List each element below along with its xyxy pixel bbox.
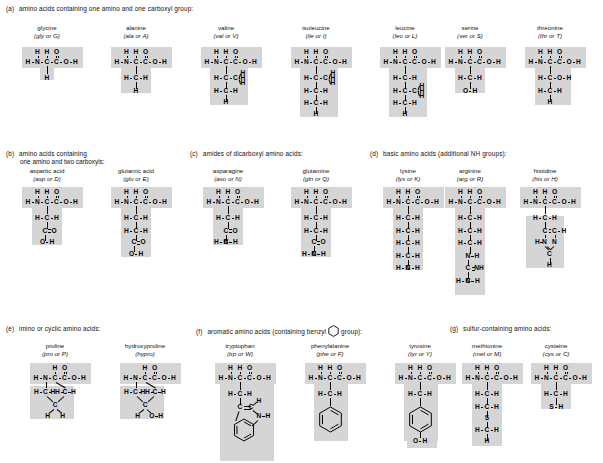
section-heading-text: basic amino acids (additional NH groups)… [381, 150, 506, 157]
bond-horizontal [320, 78, 322, 79]
atom-N-imino: N [43, 375, 48, 382]
atom-H-n-terminal: H [115, 199, 120, 206]
atom-C-ring-bottom: C [53, 402, 58, 409]
atom-H-amine: H [35, 49, 40, 56]
atom-H-hydroxyl: H [73, 59, 78, 66]
bond-horizontal [474, 202, 476, 203]
atom-C-chain: C [406, 215, 411, 222]
atom-N: N [124, 199, 129, 206]
atom-H-thiol: H [558, 403, 563, 410]
bond-horizontal [232, 218, 234, 219]
bond-horizontal [329, 202, 331, 203]
atom-H-hydroxyl: H [446, 375, 451, 382]
bond-horizontal [135, 254, 138, 255]
atom-H-hydroxyl: H [567, 75, 572, 82]
atom-C-chain: C [468, 227, 473, 234]
bond-horizontal [555, 407, 558, 408]
bond-horizontal [550, 394, 552, 395]
amino-acid-name: glycine(gly or G) [0, 24, 95, 39]
atom-O-carbonyl: O [323, 189, 328, 196]
bond-horizontal [481, 378, 483, 379]
atom-C-beta: C [548, 75, 553, 82]
atom-O-hydroxyl: O [129, 250, 134, 257]
bond-horizontal [320, 91, 322, 92]
atom-H-alpha: H [406, 189, 411, 196]
atom-C-alpha: C [406, 199, 411, 206]
atom-O-carbonyl: O [233, 49, 238, 56]
bond-horizontal [241, 202, 243, 203]
atom-C-chain: C [134, 75, 139, 82]
bond-horizontal [41, 218, 43, 219]
bond-horizontal [560, 378, 562, 379]
atom-H-alpha: H [468, 189, 473, 196]
bond-horizontal [78, 378, 80, 379]
bond-horizontal [159, 202, 161, 203]
atom-H-amine: H [544, 365, 549, 372]
bond-horizontal [121, 202, 123, 203]
bond-horizontal [464, 243, 466, 244]
atom-H-left: H [475, 403, 480, 410]
bond-horizontal [244, 394, 246, 395]
bond-horizontal [230, 78, 232, 79]
atom-S-thioether: S [485, 415, 489, 422]
atom-C-chain: C [406, 240, 411, 247]
bond-horizontal [310, 78, 312, 79]
atom-H-n-terminal: H [26, 59, 31, 66]
amino-acid-name: valine(val or V) [178, 24, 274, 39]
bond-horizontal [481, 394, 483, 395]
bond-horizontal [48, 229, 51, 230]
atom-H-n-terminal: H [529, 59, 534, 66]
bond-vertical [556, 398, 557, 405]
atom-H: H [145, 389, 150, 396]
bond-horizontal [491, 378, 493, 379]
atom-H-amine: H [318, 365, 323, 372]
atom-C-carboxyl: C [477, 59, 482, 66]
bond-horizontal [151, 392, 154, 393]
atom-H-alpha: H [45, 189, 50, 196]
atom-H-alpha: H [314, 189, 319, 196]
atom-C-chain: C [403, 100, 408, 107]
atom-H-hydroxyl: H [496, 199, 501, 206]
atom-H-alpha: H [554, 365, 559, 372]
bond-horizontal [32, 202, 34, 203]
atom-N-amine: N [406, 265, 411, 272]
bond-horizontal [409, 91, 411, 92]
atom-C-ring: C [552, 227, 557, 234]
bond-horizontal [418, 62, 420, 63]
atom-C-carboxyl: C [323, 199, 328, 206]
atom-C-chain: C [485, 391, 490, 398]
bond-horizontal [262, 416, 265, 417]
bond-horizontal [431, 202, 433, 203]
atom-H-hydroxyl: H [252, 59, 257, 66]
bond-horizontal [244, 409, 251, 410]
atom-H-hydroxyl: H [73, 199, 78, 206]
atom-C-carboxyl: C [152, 375, 157, 382]
amino-acid-abbr: (glu or E) [88, 175, 184, 183]
atom-N-imino: N [133, 375, 138, 382]
bond-horizontal [471, 256, 474, 257]
atom-H-hydroxyl: H [162, 199, 167, 206]
atom-C-carboxyl: C [415, 199, 420, 206]
bond-horizontal [399, 103, 401, 104]
atom-C-alpha: C [226, 199, 231, 206]
bond-horizontal [474, 231, 476, 232]
atom-H-hydroxyl: H [171, 375, 176, 382]
atom-O-hydroxyl: O [152, 59, 157, 66]
amino-acid-name-text: valine [178, 24, 274, 32]
amino-acid-abbr: (asn or N) [180, 175, 276, 183]
bond-horizontal [419, 441, 422, 442]
atom-H-methyl: H [224, 99, 229, 106]
amino-acid-name-text: alanine [88, 24, 184, 32]
bond-horizontal [412, 256, 414, 257]
atom-C-ring-left: C [133, 389, 138, 396]
atom-H-right: H [477, 215, 482, 222]
bond-horizontal [409, 62, 411, 63]
atom-H-right: H [412, 75, 417, 82]
section-heading-a: (a) amino acids containing one amino and… [6, 5, 193, 12]
bond-horizontal [320, 62, 322, 63]
atom-N-chain: N [465, 252, 470, 259]
bond-horizontal [59, 378, 61, 379]
atom-C-chain: C [314, 100, 319, 107]
bond-horizontal [230, 62, 232, 63]
bond-vertical [136, 382, 137, 388]
